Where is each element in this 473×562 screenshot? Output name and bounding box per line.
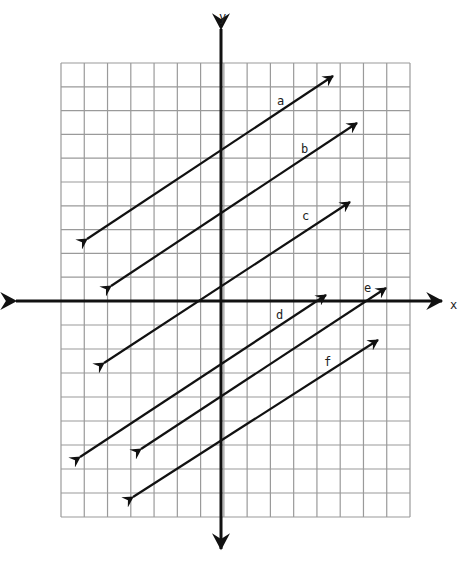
line-f-stroke — [133, 340, 378, 497]
axes: x y — [16, 10, 457, 549]
line-d-label: d — [276, 308, 283, 322]
line-c: c — [104, 202, 350, 363]
line-d-stroke — [80, 295, 326, 457]
line-a-label: a — [277, 94, 284, 108]
line-f: f — [133, 340, 378, 497]
coordinate-plane-diagram: x y abcdef — [0, 0, 473, 562]
line-e-label: e — [364, 281, 371, 295]
x-axis-label: x — [450, 298, 457, 312]
line-c-stroke — [104, 202, 350, 363]
y-axis-label: y — [219, 10, 226, 24]
line-a: a — [87, 76, 333, 239]
line-a-stroke — [87, 76, 333, 239]
line-d: d — [80, 295, 326, 457]
line-b-stroke — [111, 123, 357, 286]
grid — [61, 63, 410, 517]
line-f-label: f — [324, 355, 331, 369]
line-c-label: c — [302, 209, 309, 223]
line-b: b — [111, 123, 357, 286]
line-b-label: b — [301, 142, 308, 156]
